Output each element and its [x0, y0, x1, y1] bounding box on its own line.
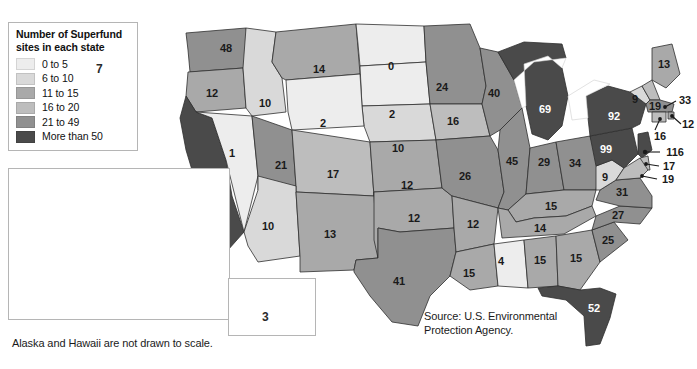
label-NJ: 116 [666, 146, 684, 158]
label-GA: 15 [570, 252, 582, 264]
label-ME: 13 [658, 58, 670, 70]
label-OK: 12 [408, 212, 420, 224]
hawaii-inset [228, 278, 316, 336]
label-NM: 13 [324, 228, 336, 240]
label-KY: 15 [545, 200, 557, 212]
legend-item-5: More than 50 [16, 130, 131, 145]
label-MD: 19 [662, 173, 674, 185]
label-MO: 26 [459, 170, 471, 182]
label-MS: 4 [498, 255, 505, 267]
label-UT: 21 [275, 159, 287, 171]
legend-item-3: 16 to 20 [16, 101, 131, 116]
label-OR: 12 [206, 87, 218, 99]
label-CO: 17 [327, 168, 339, 180]
label-ND: 0 [388, 60, 394, 72]
source-line2: Protection Agency. [424, 324, 557, 338]
legend-title: Number of Superfund sites in each state [16, 28, 131, 53]
legend-swatch-0 [16, 58, 35, 70]
label-MT: 14 [313, 63, 326, 75]
legend-item-0: 0 to 5 [16, 57, 131, 72]
label-MI: 69 [539, 103, 551, 115]
label-FL: 52 [588, 302, 600, 314]
label-SC: 25 [602, 234, 614, 246]
label-WY: 2 [320, 117, 326, 129]
hawaii-value: 3 [262, 310, 269, 324]
label-MA: 33 [679, 94, 691, 106]
label-TX: 41 [393, 275, 405, 287]
legend-swatch-5 [16, 131, 35, 143]
legend-item-2: 11 to 15 [16, 86, 131, 101]
callout-RI: 12 [670, 114, 694, 130]
label-DE: 17 [663, 160, 675, 172]
label-AZ: 10 [262, 220, 274, 232]
map-legend: Number of Superfund sites in each state … [8, 22, 138, 151]
label-OH: 34 [569, 157, 582, 169]
label-IL: 45 [506, 155, 518, 167]
label-KS: 12 [401, 179, 413, 191]
label-RI: 12 [682, 118, 694, 130]
label-IN: 29 [538, 156, 550, 168]
legend-swatch-2 [16, 87, 35, 99]
legend-title-line2: sites in each state [16, 41, 131, 54]
label-NC: 27 [612, 209, 624, 221]
label-TN: 14 [534, 222, 547, 234]
label-SD: 2 [389, 108, 395, 120]
alaska-value: 7 [96, 62, 103, 76]
label-NV: 1 [229, 147, 235, 159]
label-VT: 9 [632, 93, 638, 105]
legend-swatch-3 [16, 102, 35, 114]
legend-label-3: 16 to 20 [42, 102, 79, 113]
scale-note: Alaska and Hawaii are not drawn to scale… [12, 337, 213, 349]
legend-swatch-4 [16, 116, 35, 128]
legend-swatch-1 [16, 73, 35, 85]
legend-label-5: More than 50 [42, 131, 103, 142]
label-AR: 12 [467, 218, 479, 230]
source-note: Source: U.S. Environmental Protection Ag… [424, 310, 557, 337]
label-VA: 31 [616, 186, 628, 198]
callout-MD: 19 [640, 173, 674, 185]
legend-title-line1: Number of Superfund [16, 28, 131, 41]
superfund-map-figure: 48 12 99 1 10 14 2 21 10 13 17 0 2 10 12… [0, 0, 697, 369]
legend-label-1: 6 to 10 [42, 73, 73, 84]
legend-item-4: 21 to 49 [16, 115, 131, 130]
legend-item-1: 6 to 10 [16, 72, 131, 87]
label-NY: 92 [608, 110, 620, 122]
label-WA: 48 [220, 42, 232, 54]
label-WI: 40 [488, 87, 500, 99]
legend-label-0: 0 to 5 [42, 59, 68, 70]
legend-label-4: 21 to 49 [42, 117, 79, 128]
label-NE: 10 [392, 142, 404, 154]
label-NH: 19 [649, 100, 661, 112]
label-PA: 99 [600, 143, 612, 155]
label-ID: 10 [259, 97, 271, 109]
label-IA: 16 [447, 115, 459, 127]
label-LA: 15 [463, 267, 475, 279]
source-line1: Source: U.S. Environmental [424, 310, 557, 324]
label-CT: 16 [654, 130, 666, 142]
label-AL: 15 [534, 254, 546, 266]
alaska-inset [8, 168, 230, 320]
legend-label-2: 11 to 15 [42, 88, 78, 99]
label-WV: 9 [602, 171, 608, 183]
label-MN: 24 [436, 81, 449, 93]
